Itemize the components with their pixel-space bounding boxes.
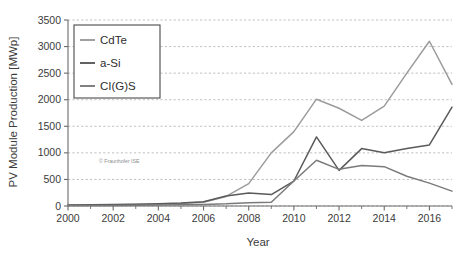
legend-label-cdte: CdTe	[100, 34, 127, 46]
y-tick-label: 2500	[38, 67, 62, 79]
y-tick-label: 0	[55, 200, 61, 212]
legend-label-a-si: a-Si	[100, 57, 120, 69]
y-tick-label: 1000	[38, 146, 62, 158]
x-axis-tick-labels: 200020022004200620082010201220142016	[56, 212, 441, 224]
chart-legend: CdTea-SiCI(G)S	[74, 25, 160, 98]
x-tick-label: 2010	[282, 212, 306, 224]
x-axis-label: Year	[246, 236, 269, 248]
x-tick-label: 2008	[237, 212, 261, 224]
y-tick-label: 3500	[38, 14, 62, 26]
x-tick-label: 2004	[147, 212, 171, 224]
line-chart: 200020022004200620082010201220142016 050…	[0, 0, 458, 254]
chart-figure: 200020022004200620082010201220142016 050…	[0, 0, 458, 254]
watermark-label: © Fraunhofer ISE	[99, 158, 140, 164]
y-tick-label: 2000	[38, 93, 62, 105]
y-tick-label: 500	[43, 173, 61, 185]
y-axis-label: PV Module Production [MWp]	[7, 37, 19, 188]
x-tick-label: 2002	[101, 212, 125, 224]
watermark: © Fraunhofer ISE	[99, 158, 140, 164]
x-tick-label: 2006	[192, 212, 216, 224]
x-tick-label: 2014	[373, 212, 397, 224]
x-tick-label: 2000	[56, 212, 80, 224]
y-tick-label: 1500	[38, 120, 62, 132]
x-tick-label: 2016	[418, 212, 442, 224]
y-tick-label: 3000	[38, 40, 62, 52]
x-tick-label: 2012	[327, 212, 351, 224]
legend-label-ci-g-s: CI(G)S	[100, 80, 136, 92]
